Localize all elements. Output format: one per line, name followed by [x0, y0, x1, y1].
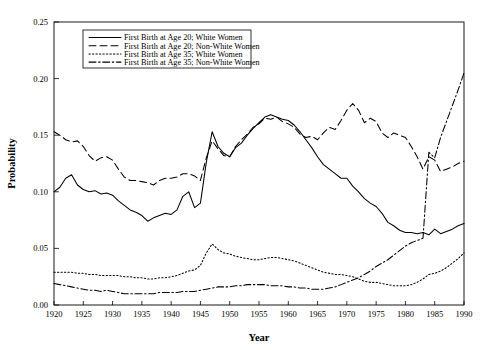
series-line-2 — [54, 244, 464, 286]
x-axis-title: Year — [249, 332, 270, 343]
x-tick-label-1975: 1975 — [368, 309, 385, 319]
y-tick-label-0.20: 0.20 — [33, 74, 48, 84]
x-tick-label-1940: 1940 — [163, 309, 180, 319]
x-tick-label-1945: 1945 — [192, 309, 209, 319]
x-tick-label-1925: 1925 — [75, 309, 92, 319]
x-tick-label-1970: 1970 — [338, 309, 355, 319]
y-tick-label-0.10: 0.10 — [33, 187, 48, 197]
legend: First Birth at Age 20; White WomenFirst … — [83, 30, 260, 68]
x-tick-label-1935: 1935 — [133, 309, 150, 319]
y-tick-label-0.15: 0.15 — [33, 130, 48, 140]
x-tick-label-1980: 1980 — [397, 309, 414, 319]
series-line-3 — [54, 73, 464, 294]
x-tick-label-1985: 1985 — [426, 309, 443, 319]
x-tick-label-1930: 1930 — [104, 309, 121, 319]
x-tick-label-1990: 1990 — [456, 309, 473, 319]
legend-label-3: First Birth at Age 35; Non-White Women — [124, 58, 260, 67]
probability-line-chart: 1920192519301935194019451950195519601965… — [0, 0, 490, 350]
series-line-0 — [54, 115, 464, 235]
x-tick-label-1920: 1920 — [46, 309, 63, 319]
chart-canvas: 1920192519301935194019451950195519601965… — [0, 0, 490, 350]
x-tick-label-1960: 1960 — [280, 309, 297, 319]
x-tick-label-1965: 1965 — [309, 309, 326, 319]
x-tick-label-1950: 1950 — [221, 309, 238, 319]
y-axis-title: Probability — [6, 137, 17, 188]
y-tick-label-0.00: 0.00 — [33, 300, 48, 310]
series-line-1 — [54, 104, 464, 186]
x-tick-label-1955: 1955 — [251, 309, 268, 319]
y-tick-label-0.05: 0.05 — [33, 243, 48, 253]
y-tick-label-0.25: 0.25 — [33, 17, 48, 27]
